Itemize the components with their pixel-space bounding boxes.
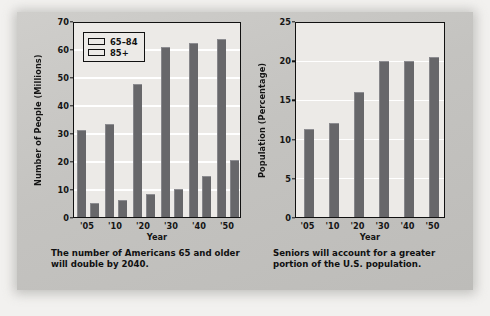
legend-label-85-plus: 85+ (110, 48, 129, 58)
bar (90, 203, 99, 217)
legend-item-65-84: 65–84 (88, 36, 138, 47)
y-axis-ticks-left: 010203040506070 (49, 22, 73, 218)
legend-item-85-plus: 85+ (88, 47, 138, 58)
x-axis-title-right: Year (295, 232, 445, 242)
x-axis-title-left: Year (73, 232, 241, 242)
x-tick-label: '30 (376, 221, 390, 231)
chart-legend: 65–84 85+ (83, 32, 145, 62)
bar (161, 47, 170, 217)
y-axis-title-left: Number of People (Millions) (31, 22, 45, 218)
plot-block-right: Population (Percentage) 0510152025 (255, 22, 459, 230)
x-tick-label: '05 (301, 221, 315, 231)
x-tick-label: '40 (192, 221, 206, 231)
bar-group (186, 23, 214, 217)
bar (429, 57, 439, 217)
bar (105, 124, 114, 217)
figure-panel: Number of People (Millions) 010203040506… (17, 12, 473, 290)
bar (354, 92, 364, 217)
bar-group (396, 23, 421, 217)
y-tick-label: 20 (280, 56, 291, 66)
y-tick-label: 0 (285, 213, 291, 223)
y-tick-label: 0 (63, 213, 69, 223)
bar (379, 61, 389, 217)
caption-left: The number of Americans 65 and older wil… (51, 248, 247, 270)
x-tick-label: '10 (108, 221, 122, 231)
legend-swatch-85-plus (88, 49, 105, 57)
bar (230, 160, 239, 217)
bar (118, 200, 127, 217)
bar (404, 61, 414, 217)
bar (217, 39, 226, 217)
bar (146, 194, 155, 217)
plot-block-left: Number of People (Millions) 010203040506… (31, 22, 245, 230)
x-tick-label: '40 (401, 221, 415, 231)
y-tick-label: 5 (285, 174, 291, 184)
x-tick-label: '50 (426, 221, 440, 231)
caption-right: Seniors will account for a greater porti… (273, 248, 463, 270)
y-tick-label: 50 (58, 73, 69, 83)
bar-group (346, 23, 371, 217)
bar-group (296, 23, 321, 217)
y-axis-title-right: Population (Percentage) (255, 22, 269, 218)
bar (202, 176, 211, 217)
plot-area-right (295, 22, 445, 218)
bar (174, 189, 183, 217)
bar-group (214, 23, 242, 217)
bar-group (371, 23, 396, 217)
legend-label-65-84: 65–84 (110, 37, 138, 47)
bar (304, 129, 314, 217)
x-axis-left: Year '05'10'20'30'40'50 (73, 218, 241, 244)
bar (77, 130, 86, 217)
y-tick-label: 60 (58, 45, 69, 55)
x-tick-label: '20 (351, 221, 365, 231)
x-tick-label: '50 (220, 221, 234, 231)
chart-seniors-count: Number of People (Millions) 010203040506… (31, 22, 245, 280)
bars-right (296, 23, 444, 217)
y-tick-label: 70 (58, 17, 69, 27)
y-tick-label: 10 (58, 185, 69, 195)
y-tick-label: 40 (58, 101, 69, 111)
legend-swatch-65-84 (88, 38, 105, 46)
bar-group (321, 23, 346, 217)
y-tick-label: 25 (280, 17, 291, 27)
y-axis-ticks-right: 0510152025 (271, 22, 295, 218)
y-tick-label: 15 (280, 95, 291, 105)
x-tick-label: '10 (326, 221, 340, 231)
x-tick-label: '30 (164, 221, 178, 231)
y-tick-label: 20 (58, 157, 69, 167)
bar (329, 123, 339, 217)
bar (189, 43, 198, 217)
x-axis-right: Year '05'10'20'30'40'50 (295, 218, 445, 244)
bar-group (158, 23, 186, 217)
x-tick-label: '05 (80, 221, 94, 231)
y-tick-label: 30 (58, 129, 69, 139)
figure-page: Number of People (Millions) 010203040506… (0, 0, 490, 316)
bar (133, 84, 142, 217)
bar-group (421, 23, 446, 217)
x-tick-label: '20 (136, 221, 150, 231)
y-tick-label: 10 (280, 135, 291, 145)
chart-seniors-percentage: Population (Percentage) 0510152025 Year … (255, 22, 459, 280)
